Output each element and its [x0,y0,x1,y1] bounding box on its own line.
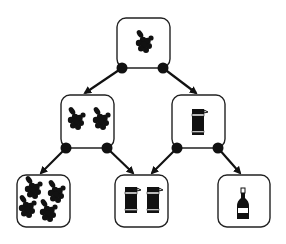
junction-dot [172,143,183,154]
diagram-canvas [0,0,286,244]
junction-dot [117,63,128,74]
node-wine-bottle [218,175,270,227]
junction-dot [213,143,224,154]
node-grapes-double [61,95,114,148]
junction-dot [102,143,113,154]
junction-dot [61,143,72,154]
tree-diagram: grape cluster two grape clusters juice c… [0,0,286,244]
edge-grapes-single-to-carton-single [163,68,196,93]
edge-grapes-single-to-grapes-double [85,68,122,93]
node-grapes-single [117,18,170,68]
junction-dot [158,63,169,74]
node-carton-double [115,175,168,227]
node-carton-single [172,95,225,148]
node-grapes-quad [17,175,70,227]
